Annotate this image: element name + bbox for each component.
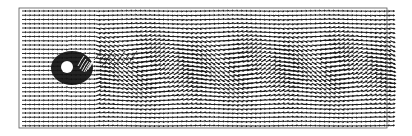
velocity-arrow [211, 19, 215, 20]
velocity-arrow [330, 10, 334, 11]
velocity-arrow [183, 15, 187, 16]
velocity-arrow [63, 87, 67, 88]
velocity-arrow [284, 86, 289, 88]
velocity-arrow [275, 121, 279, 122]
velocity-arrow [27, 49, 31, 50]
velocity-arrow [321, 14, 325, 15]
velocity-arrow [86, 91, 90, 92]
velocity-arrow [312, 31, 317, 32]
velocity-arrow [372, 45, 377, 46]
velocity-arrow [266, 60, 270, 62]
velocity-arrow [349, 47, 354, 49]
velocity-arrow [215, 14, 219, 15]
velocity-arrow [183, 45, 188, 46]
velocity-arrow [183, 121, 187, 122]
velocity-arrow [275, 49, 280, 50]
velocity-arrow [82, 125, 86, 126]
velocity-arrow [266, 108, 271, 109]
velocity-arrow [211, 41, 216, 43]
velocity-arrow [137, 48, 142, 49]
velocity-arrow [257, 91, 262, 92]
velocity-arrow [358, 125, 362, 126]
velocity-arrow [63, 91, 67, 92]
velocity-arrow [229, 88, 234, 90]
velocity-arrow [77, 48, 81, 49]
velocity-arrow [178, 68, 183, 70]
velocity-arrow [367, 103, 372, 104]
velocity-arrow [22, 57, 26, 58]
velocity-arrow [169, 68, 173, 71]
velocity-arrow [119, 112, 123, 113]
velocity-arrow [266, 103, 271, 104]
velocity-arrow [40, 53, 44, 54]
velocity-arrow [362, 103, 367, 104]
velocity-arrow [27, 15, 31, 16]
velocity-arrow [316, 31, 321, 32]
velocity-arrow [132, 71, 137, 73]
velocity-arrow [229, 66, 234, 68]
velocity-arrow [298, 83, 303, 84]
velocity-arrow [27, 10, 31, 11]
velocity-arrow [178, 56, 183, 57]
velocity-arrow [243, 113, 248, 114]
velocity-arrow [82, 23, 86, 24]
velocity-arrow [82, 31, 86, 32]
velocity-arrow [339, 14, 343, 15]
velocity-arrow [137, 39, 142, 41]
velocity-arrow [266, 15, 270, 16]
velocity-arrow [303, 54, 307, 56]
velocity-arrow [119, 41, 124, 42]
velocity-arrow [284, 15, 288, 16]
velocity-arrow [234, 22, 239, 23]
velocity-arrow [247, 125, 251, 126]
velocity-arrow [188, 81, 193, 83]
velocity-arrow [86, 100, 90, 101]
velocity-arrow [73, 31, 77, 32]
velocity-arrow [119, 66, 123, 69]
velocity-arrow [123, 23, 127, 24]
velocity-arrow [197, 120, 201, 121]
velocity-arrow [229, 14, 233, 15]
velocity-arrow [77, 27, 81, 28]
velocity-arrow [123, 14, 127, 15]
velocity-arrow [234, 43, 239, 45]
velocity-arrow [307, 49, 311, 51]
velocity-arrow [376, 85, 381, 87]
velocity-arrow [367, 44, 372, 45]
velocity-arrow [22, 87, 26, 88]
velocity-arrow [261, 64, 265, 67]
velocity-arrow [63, 108, 67, 109]
velocity-arrow [50, 27, 54, 28]
velocity-arrow [128, 27, 133, 28]
velocity-arrow [372, 103, 377, 105]
velocity-arrow [385, 19, 390, 20]
velocity-arrow [31, 53, 35, 54]
velocity-arrow [188, 54, 193, 56]
velocity-arrow [183, 73, 188, 75]
velocity-arrow [293, 79, 298, 80]
velocity-arrow [91, 91, 95, 92]
velocity-arrow [280, 19, 284, 20]
velocity-arrow [31, 40, 35, 41]
velocity-arrow [339, 18, 344, 19]
velocity-arrow [142, 121, 146, 122]
velocity-arrow [303, 41, 308, 43]
velocity-arrow [137, 109, 142, 110]
velocity-arrow [50, 117, 54, 118]
velocity-arrow [284, 120, 288, 121]
velocity-arrow [119, 10, 123, 11]
velocity-arrow [22, 61, 26, 62]
velocity-arrow [59, 104, 63, 105]
velocity-arrow [206, 87, 211, 88]
velocity-arrow [266, 11, 270, 12]
velocity-arrow [169, 125, 173, 126]
velocity-arrow [36, 44, 40, 45]
velocity-arrow [137, 121, 141, 122]
velocity-arrow [362, 32, 367, 33]
velocity-arrow [211, 66, 215, 69]
velocity-arrow [174, 81, 178, 83]
velocity-arrow [349, 55, 353, 58]
velocity-arrow [312, 121, 316, 122]
velocity-arrow [128, 104, 133, 105]
velocity-arrow [275, 15, 279, 16]
